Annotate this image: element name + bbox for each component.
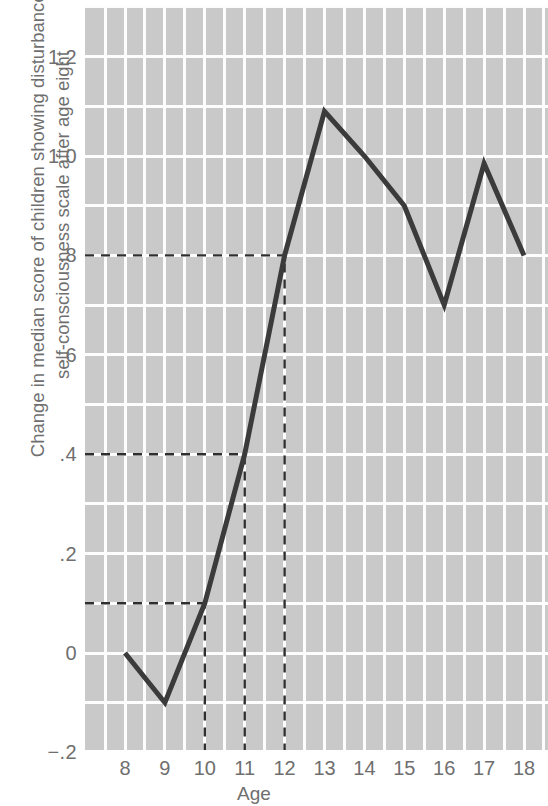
- y-axis-tick-label: .6: [60, 343, 77, 366]
- data-layer: [85, 5, 548, 750]
- x-axis-title: Age: [0, 783, 548, 805]
- x-axis-tick-label: 14: [353, 757, 375, 780]
- x-axis-tick-label: 8: [119, 757, 130, 780]
- y-axis-tick-label: .2: [60, 542, 77, 565]
- y-axis-tick-label: 0: [65, 642, 77, 665]
- x-axis-tick-label: 18: [513, 757, 535, 780]
- x-axis-tick-label: 15: [393, 757, 415, 780]
- y-axis-tick-label: 1.0: [48, 145, 77, 168]
- x-axis-tick-label: 17: [473, 757, 495, 780]
- x-axis-tick-label: 12: [273, 757, 295, 780]
- x-axis-tick-label: 10: [194, 757, 216, 780]
- y-axis-tick-labels: 1.21.0.8.6.4.20−.2: [0, 0, 85, 806]
- data-line: [125, 111, 524, 702]
- plot-area: [85, 5, 548, 750]
- x-axis-tick-label: 13: [313, 757, 335, 780]
- y-axis-tick-label: .8: [60, 244, 77, 267]
- chart-figure: 1.21.0.8.6.4.20−.2 89101112131415161718 …: [0, 0, 548, 806]
- series-svg: [85, 5, 548, 750]
- y-axis-tick-label: 1.2: [48, 45, 77, 68]
- x-axis-tick-label: 11: [234, 757, 255, 780]
- x-axis-title-text: Age: [237, 783, 271, 805]
- x-axis-tick-label: 9: [159, 757, 170, 780]
- y-axis-tick-label: .4: [60, 443, 77, 466]
- x-axis-tick-label: 16: [433, 757, 455, 780]
